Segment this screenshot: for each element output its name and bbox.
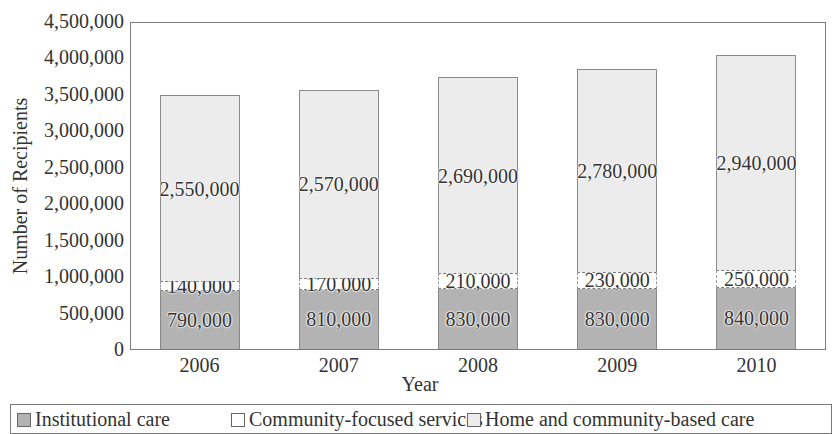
- data-label: 2,550,000: [141, 179, 259, 199]
- y-axis-title-wrap: Number of Recipients: [0, 0, 36, 372]
- legend-item: Home and community-based care: [467, 409, 754, 429]
- legend-item: Institutional care: [17, 409, 170, 429]
- data-label: 840,000: [697, 308, 815, 328]
- segment-community-focused-services: 140,000: [160, 281, 240, 291]
- legend-item: Community-focused services: [231, 409, 483, 429]
- legend-swatch-icon: [231, 413, 245, 427]
- y-tick-label: 3,000,000: [44, 120, 124, 140]
- bar-2006: 790,000140,0002,550,000: [160, 95, 240, 349]
- y-axis-title: Number of Recipients: [9, 86, 32, 286]
- legend: Institutional careCommunity-focused serv…: [10, 404, 832, 434]
- data-label: 230,000: [558, 270, 676, 290]
- segment-home-and-community-based-care: 2,550,000: [160, 95, 240, 281]
- data-label: 830,000: [558, 309, 676, 329]
- bar-2010: 840,000250,0002,940,000: [716, 55, 796, 349]
- segment-community-focused-services: 250,000: [716, 270, 796, 288]
- legend-label: Community-focused services: [249, 408, 483, 430]
- x-axis-title: Year: [0, 374, 840, 394]
- segment-institutional-care: 830,000: [438, 289, 518, 349]
- bar-2007: 810,000170,0002,570,000: [299, 90, 379, 349]
- data-label: 2,690,000: [419, 166, 537, 186]
- segment-community-focused-services: 230,000: [577, 272, 657, 289]
- segment-institutional-care: 830,000: [577, 289, 657, 349]
- x-tick-label: 2007: [299, 354, 379, 376]
- x-tick-label: 2009: [577, 354, 657, 376]
- segment-home-and-community-based-care: 2,940,000: [716, 55, 796, 269]
- x-tick-label: 2010: [716, 354, 796, 376]
- data-label: 250,000: [697, 269, 815, 289]
- segment-home-and-community-based-care: 2,780,000: [577, 69, 657, 272]
- y-tick-label: 2,500,000: [44, 157, 124, 177]
- y-tick-label: 500,000: [59, 303, 124, 323]
- data-label: 210,000: [419, 271, 537, 291]
- bar-2009: 830,000230,0002,780,000: [577, 69, 657, 349]
- y-tick-label: 3,500,000: [44, 84, 124, 104]
- segment-community-focused-services: 210,000: [438, 273, 518, 288]
- y-tick-label: 4,500,000: [44, 11, 124, 31]
- data-label: 810,000: [280, 309, 398, 329]
- legend-label: Home and community-based care: [485, 408, 754, 430]
- plot-area: 790,000140,0002,550,000810,000170,0002,5…: [130, 22, 826, 350]
- x-tick-label: 2008: [438, 354, 518, 376]
- legend-swatch-icon: [17, 413, 31, 427]
- segment-home-and-community-based-care: 2,690,000: [438, 77, 518, 273]
- data-label: 790,000: [141, 310, 259, 330]
- data-label: 2,570,000: [280, 174, 398, 194]
- segment-institutional-care: 810,000: [299, 290, 379, 349]
- segment-home-and-community-based-care: 2,570,000: [299, 90, 379, 277]
- segment-institutional-care: 790,000: [160, 291, 240, 349]
- legend-label: Institutional care: [35, 408, 170, 430]
- y-tick-label: 4,000,000: [44, 47, 124, 67]
- data-label: 830,000: [419, 309, 537, 329]
- segment-institutional-care: 840,000: [716, 288, 796, 349]
- y-tick-label: 2,000,000: [44, 193, 124, 213]
- y-tick-label: 1,000,000: [44, 266, 124, 286]
- y-tick-label: 0: [114, 339, 124, 359]
- data-label: 2,940,000: [697, 153, 815, 173]
- bar-2008: 830,000210,0002,690,000: [438, 77, 518, 349]
- y-tick-label: 1,500,000: [44, 230, 124, 250]
- legend-swatch-icon: [467, 413, 481, 427]
- segment-community-focused-services: 170,000: [299, 278, 379, 290]
- x-tick-label: 2006: [160, 354, 240, 376]
- data-label: 2,780,000: [558, 161, 676, 181]
